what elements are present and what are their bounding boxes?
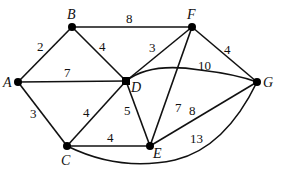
edge-E-G	[150, 82, 257, 146]
weight-C-E: 4	[107, 130, 114, 145]
weight-B-F: 8	[126, 11, 133, 26]
graph-canvas: 2 7 3 8 4 4 4 13 3 5 10 7 8 4 A B C D E …	[0, 0, 285, 170]
edge-B-D	[72, 27, 126, 81]
edge-D-G	[126, 68, 257, 82]
weight-A-B: 2	[37, 39, 44, 54]
weight-A-D: 7	[64, 65, 71, 80]
label-A: A	[2, 75, 12, 90]
weight-E-F: 7	[175, 100, 182, 115]
label-F: F	[186, 7, 196, 22]
weight-E-G: 8	[189, 103, 196, 118]
weighted-graph-diagram: 2 7 3 8 4 4 4 13 3 5 10 7 8 4 A B C D E …	[0, 0, 285, 170]
weight-C-G: 13	[190, 131, 203, 146]
edge-A-D	[18, 81, 126, 82]
edge-A-C	[18, 82, 67, 146]
label-G: G	[263, 75, 273, 90]
label-D: D	[130, 80, 141, 95]
weight-D-E: 5	[124, 103, 131, 118]
edge-C-D	[67, 81, 126, 146]
weight-F-G: 4	[224, 42, 231, 57]
weight-C-D: 4	[83, 105, 90, 120]
weight-D-F: 3	[149, 40, 156, 55]
node-D	[122, 77, 130, 85]
edge-C-G	[67, 82, 257, 164]
node-A	[14, 78, 22, 86]
node-F	[188, 23, 196, 31]
weight-B-D: 4	[99, 39, 106, 54]
weight-D-G: 10	[198, 58, 211, 73]
node-G	[253, 78, 261, 86]
node-C	[63, 142, 71, 150]
label-C: C	[61, 153, 71, 168]
label-B: B	[67, 7, 76, 22]
node-B	[68, 23, 76, 31]
weight-A-C: 3	[30, 106, 37, 121]
label-E: E	[152, 146, 162, 161]
